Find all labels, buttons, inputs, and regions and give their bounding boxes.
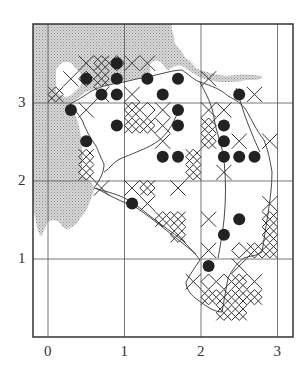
cross-mark (232, 274, 247, 289)
record-dot (96, 88, 108, 100)
record-dot (218, 135, 230, 147)
cross-mark (186, 274, 201, 289)
record-dot (80, 73, 92, 85)
record-dot (111, 88, 123, 100)
diamond-mark (232, 243, 247, 258)
cross-mark (201, 290, 216, 305)
record-dot (218, 120, 230, 132)
record-dot (172, 151, 184, 163)
cross-mark (247, 274, 262, 289)
record-dot (233, 213, 245, 225)
cross-mark (125, 102, 140, 117)
x-tick-label: 1 (121, 343, 129, 360)
record-dot (172, 120, 184, 132)
record-dot (157, 88, 169, 100)
cross-mark (201, 243, 216, 258)
cross-mark (155, 102, 170, 117)
cross-mark (125, 87, 140, 102)
cross-mark (247, 290, 262, 305)
cross-mark (155, 212, 170, 227)
y-tick-label: 3 (18, 94, 26, 111)
cross-mark (186, 149, 201, 164)
cross-mark (155, 118, 170, 133)
record-dot (172, 104, 184, 116)
record-dot (249, 151, 261, 163)
cross-mark (140, 180, 155, 195)
cross-mark (140, 118, 155, 133)
cross-mark (201, 212, 216, 227)
cross-mark (262, 212, 277, 227)
distribution-map (0, 0, 305, 375)
record-dot (233, 88, 245, 100)
record-dot (111, 120, 123, 132)
cross-mark (247, 87, 262, 102)
coastline-and-rivers (70, 70, 272, 312)
record-dot (218, 151, 230, 163)
diamond-mark (201, 274, 216, 289)
record-dot (80, 135, 92, 147)
y-tick-label: 2 (18, 172, 26, 189)
record-dot (233, 151, 245, 163)
cross-mark (232, 258, 247, 273)
cross-mark (201, 102, 216, 117)
cross-mark (232, 290, 247, 305)
cross-mark (125, 180, 140, 195)
record-dot (111, 73, 123, 85)
cross-mark (216, 165, 231, 180)
cross-mark (232, 305, 247, 320)
x-tick-label: 3 (274, 343, 282, 360)
record-dot (157, 151, 169, 163)
cross-mark (201, 134, 216, 149)
cross-mark (186, 165, 201, 180)
cross-mark (125, 118, 140, 133)
record-dot (111, 57, 123, 69)
cross-mark (216, 102, 231, 117)
cross-mark (262, 243, 277, 258)
diamond-mark (140, 102, 155, 117)
record-dot (218, 229, 230, 241)
x-tick-label: 2 (197, 343, 205, 360)
cross-mark (140, 196, 155, 211)
record-dot (141, 73, 153, 85)
x-tick-label: 0 (44, 343, 52, 360)
record-dot (126, 198, 138, 210)
record-dot (172, 73, 184, 85)
record-dot (203, 260, 215, 272)
cross-mark (79, 102, 94, 117)
cross-mark (170, 212, 185, 227)
cross-mark (201, 118, 216, 133)
record-dot (65, 104, 77, 116)
cross-mark (216, 305, 231, 320)
y-tick-label: 1 (18, 250, 26, 267)
cross-mark (170, 180, 185, 195)
cross-mark (232, 134, 247, 149)
